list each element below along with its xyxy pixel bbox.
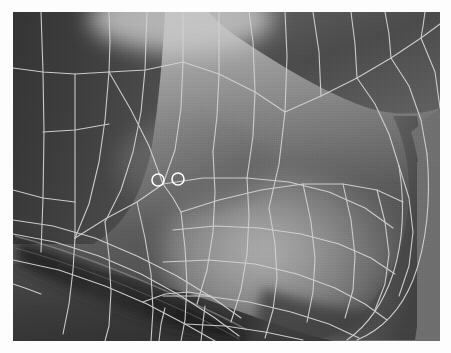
shaded-surface-layer — [13, 12, 440, 341]
viewport-canvas[interactable] — [13, 12, 440, 341]
viewport-render[interactable] — [13, 12, 440, 341]
screenshot-root: 3D Viewport — Wireframe over Shaded Surf… — [0, 0, 451, 353]
surface-bridge-midtone — [119, 118, 267, 210]
